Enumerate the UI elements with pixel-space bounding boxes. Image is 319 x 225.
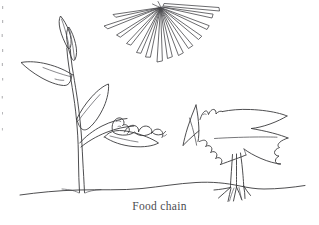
food-chain-sketch [0, 0, 319, 225]
plant [21, 16, 159, 193]
edge-specks [2, 6, 4, 131]
plant-stem-branch [80, 119, 134, 148]
plant-leaf-left [21, 62, 72, 86]
bird [183, 105, 288, 202]
plant-bud-leaf-inner [59, 16, 71, 49]
ground-line [20, 182, 305, 195]
sun-ray [164, 4, 220, 12]
bird-claws [214, 186, 251, 202]
plant-bud-leaf-outer [67, 27, 77, 60]
sun [104, 2, 220, 63]
sun-ray [162, 7, 213, 18]
plant-leaf-right [77, 84, 109, 130]
